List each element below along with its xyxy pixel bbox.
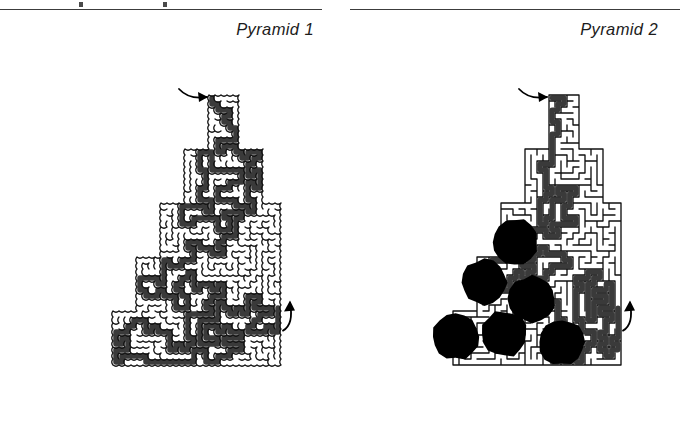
column-right: Pyramid 2: [340, 0, 680, 425]
exit-arrow-head: [624, 301, 635, 312]
pyramid-2-caption: Pyramid 2: [580, 20, 658, 39]
maze-hole: [493, 219, 537, 264]
cropped-headline-remnant: [0, 0, 340, 8]
pyramid-1-svg: [0, 46, 340, 406]
pyramid-2-figure: [340, 46, 680, 406]
pyramid-1-caption: Pyramid 1: [236, 20, 314, 39]
maze-hole: [539, 320, 585, 364]
maze-hole: [482, 311, 526, 356]
pyramid-2-svg: [340, 46, 680, 406]
column-rule-left: [0, 9, 322, 10]
exit-arrow-head: [284, 301, 295, 312]
column-rule-right: [350, 9, 680, 10]
maze-walls: [112, 95, 281, 366]
entrance-arrow-head: [538, 92, 548, 102]
entrance-arrow-head: [198, 92, 208, 102]
maze-hole: [433, 313, 479, 359]
puzzle-page: Pyramid 1 Pyramid 2: [0, 0, 680, 425]
column-left: Pyramid 1: [0, 0, 340, 425]
pyramid-1-figure: [0, 46, 340, 406]
